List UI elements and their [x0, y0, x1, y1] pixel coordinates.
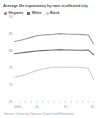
plot-area: 657075808590: [3, 18, 94, 103]
series-line: [14, 50, 94, 55]
y-tick-label: 75: [9, 67, 13, 70]
plot-canvas: [14, 18, 94, 103]
line-chart-svg: [14, 18, 94, 103]
chart-legend: Hispanic White Black: [4, 10, 94, 16]
y-axis: 657075808590: [3, 18, 14, 103]
legend-item-hispanic[interactable]: Hispanic: [4, 11, 23, 15]
y-tick-label: 65: [9, 101, 13, 104]
y-tick-label: 80: [9, 50, 13, 53]
source-note: Source: Center for Disease Control and P…: [4, 112, 94, 116]
chart-title: Average life expectancy by race in affec…: [3, 3, 94, 8]
x-tick-label: 2006: [14, 106, 21, 109]
y-tick-label: 70: [9, 84, 13, 87]
series-line: [14, 34, 94, 45]
chart-card: Average life expectancy by race in affec…: [0, 0, 97, 118]
y-tick-label: 90: [9, 16, 13, 19]
legend-swatch-hispanic: [4, 12, 7, 15]
x-tick-label: 15: [64, 106, 68, 109]
x-tick-label: 20: [90, 106, 94, 109]
x-tick-label: 10: [35, 106, 39, 109]
y-tick-label: 85: [9, 33, 13, 36]
legend-item-black[interactable]: Black: [46, 11, 60, 15]
legend-label-black: Black: [50, 11, 60, 15]
legend-label-white: White: [32, 11, 42, 15]
legend-item-white[interactable]: White: [27, 11, 41, 15]
legend-swatch-white: [27, 12, 30, 15]
legend-swatch-black: [46, 12, 49, 15]
series-line: [14, 67, 94, 80]
legend-label-hispanic: Hispanic: [8, 11, 23, 15]
x-axis: 2006101520: [14, 103, 94, 112]
